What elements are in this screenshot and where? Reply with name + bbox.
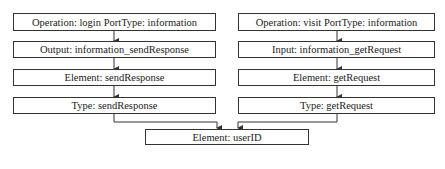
box-type-sendresponse: Type: sendResponse (13, 97, 216, 114)
arrow-merge-left (114, 114, 217, 128)
box-input: Input: information_getRequest (238, 41, 435, 58)
arrow-merge-right (238, 114, 337, 128)
box-operation-login: Operation: login PortType: information (13, 13, 216, 31)
box-element-getrequest: Element: getRequest (238, 69, 435, 86)
box-output: Output: information_sendResponse (13, 41, 216, 58)
box-type-getrequest: Type: getRequest (238, 97, 435, 114)
box-element-userid: Element: userID (145, 129, 309, 145)
box-element-sendresponse: Element: sendResponse (13, 69, 216, 86)
box-operation-visit: Operation: visit PortType: information (238, 13, 435, 31)
